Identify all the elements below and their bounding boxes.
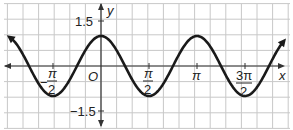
origin-label: O [88,69,98,84]
y-axis-down-arrow-icon [98,120,104,127]
svg-text:2: 2 [144,82,151,97]
cosine-graph: y x O 1.5 −1.5 − π 2 π 2 π 3π 2 [0,0,293,130]
svg-text:−: − [40,75,48,90]
y-tick-neg-1-5: −1.5 [70,104,96,119]
svg-text:π: π [192,68,201,83]
y-tick-1-5: 1.5 [75,14,93,29]
y-axis-label: y [106,3,115,18]
svg-text:3π: 3π [236,68,252,83]
svg-text:2: 2 [48,82,55,97]
svg-text:π: π [48,66,57,81]
svg-text:2: 2 [240,84,247,99]
x-axis-label: x [278,68,286,83]
x-tick-pi-half: π 2 [143,66,153,97]
y-axis [98,3,104,127]
x-tick-pi: π [192,68,201,83]
svg-text:π: π [144,66,153,81]
x-tick-neg-pi-half: − π 2 [40,66,57,97]
